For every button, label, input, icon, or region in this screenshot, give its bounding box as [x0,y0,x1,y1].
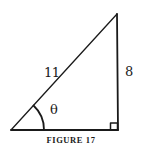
opposite-side-line [117,14,118,130]
figure-17: 11 8 θ FIGURE 17 [0,0,142,154]
hypotenuse-label: 11 [44,66,60,79]
right-angle-marker [111,123,118,130]
figure-caption: FIGURE 17 [0,136,142,145]
theta-label: θ [50,103,58,116]
triangle-diagram [0,0,142,154]
opposite-side-label: 8 [125,65,133,78]
angle-arc [34,106,45,131]
hypotenuse-line [11,14,117,130]
